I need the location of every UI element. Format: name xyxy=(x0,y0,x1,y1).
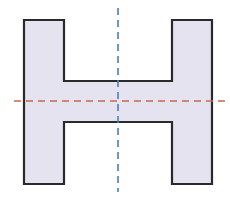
h-shape-symmetry-diagram xyxy=(0,0,230,197)
